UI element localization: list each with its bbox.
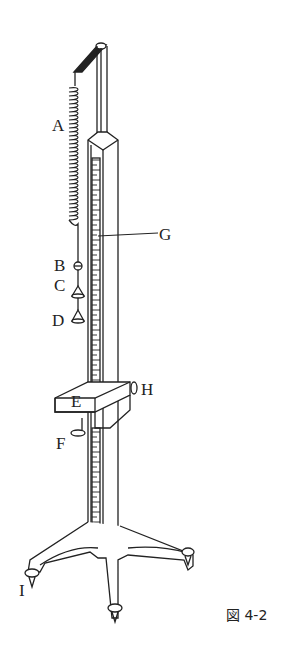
- label-g: G: [159, 226, 171, 243]
- clamp-e: [55, 382, 137, 436]
- label-f: F: [56, 435, 65, 452]
- base: [25, 522, 194, 622]
- label-c: C: [54, 277, 65, 294]
- label-a: A: [52, 117, 64, 134]
- figure-caption: 図 4-2: [226, 604, 267, 624]
- scale-upper: [92, 158, 100, 390]
- label-e: E: [71, 393, 81, 410]
- jolly-balance-diagram: [0, 0, 287, 659]
- label-h: H: [141, 381, 153, 398]
- pan-c: [72, 278, 84, 310]
- inner-rod: [97, 46, 107, 140]
- label-d: D: [52, 312, 64, 329]
- hanger-b: [74, 240, 82, 278]
- label-b: B: [54, 257, 65, 274]
- spring: [69, 88, 78, 240]
- label-i: I: [19, 582, 25, 599]
- scale-lower: [92, 428, 100, 533]
- pan-d: [72, 310, 84, 323]
